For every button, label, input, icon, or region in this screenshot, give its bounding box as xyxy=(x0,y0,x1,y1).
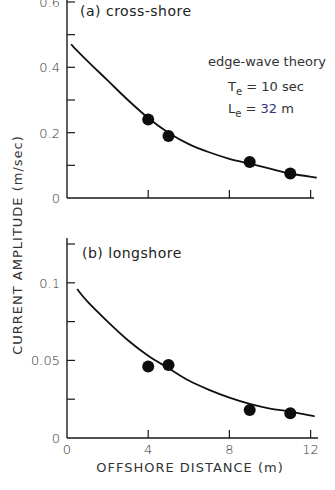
x-tick-label: 4 xyxy=(144,442,152,457)
data-point xyxy=(142,114,154,126)
data-point xyxy=(244,156,256,168)
y-tick-label: 0.4 xyxy=(39,60,60,75)
data-point xyxy=(163,359,175,371)
x-axis-label: OFFSHORE DISTANCE (m) xyxy=(96,460,283,475)
annotation-line-2: Te = 10 sec xyxy=(227,79,304,97)
y-tick-label: 0 xyxy=(52,191,60,206)
data-point xyxy=(284,167,296,179)
x-tick-label: 8 xyxy=(225,442,233,457)
panel-a-cross-shore: 00.20.40.6 (a) cross-shore edge-wave the… xyxy=(39,0,326,206)
x-tick-label: 0 xyxy=(63,442,71,457)
y-tick-label: 0.1 xyxy=(39,276,60,291)
y-tick-label: 0.2 xyxy=(39,126,60,141)
data-point xyxy=(284,407,296,419)
data-point xyxy=(142,361,154,373)
panel-a-title: (a) cross-shore xyxy=(80,3,192,19)
panel-b-data-points xyxy=(142,359,296,419)
panel-b-theory-curve xyxy=(77,289,315,416)
data-point xyxy=(163,130,175,142)
theory-annotation: edge-wave theory Te = 10 sec Le = 32 m xyxy=(208,54,326,119)
y-tick-label: 0 xyxy=(52,431,60,446)
annotation-line-3: Le = 32 m xyxy=(228,101,294,119)
x-tick-label: 12 xyxy=(302,442,319,457)
y-tick-label: 0.6 xyxy=(39,0,60,10)
y-tick-label: 0.05 xyxy=(31,353,60,368)
data-point xyxy=(244,404,256,416)
y-axis-label: CURRENT AMPLITUDE (m/sec) xyxy=(10,135,25,355)
annotation-line-1: edge-wave theory xyxy=(208,54,326,69)
panel-b-title: (b) longshore xyxy=(82,245,182,261)
panel-b-longshore: 00.050.1 04812 (b) longshore OFFSHORE DI… xyxy=(31,238,319,475)
figure: CURRENT AMPLITUDE (m/sec) 00.20.40.6 (a)… xyxy=(0,0,335,490)
